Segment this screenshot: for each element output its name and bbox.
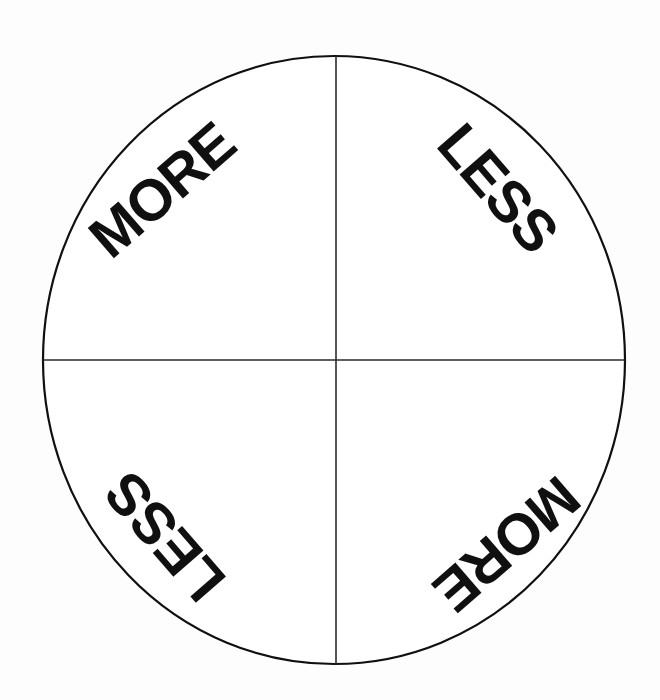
quadrant-circle-diagram: MORE LESS LESS MORE [0,0,660,700]
circle-graphic [0,0,660,700]
